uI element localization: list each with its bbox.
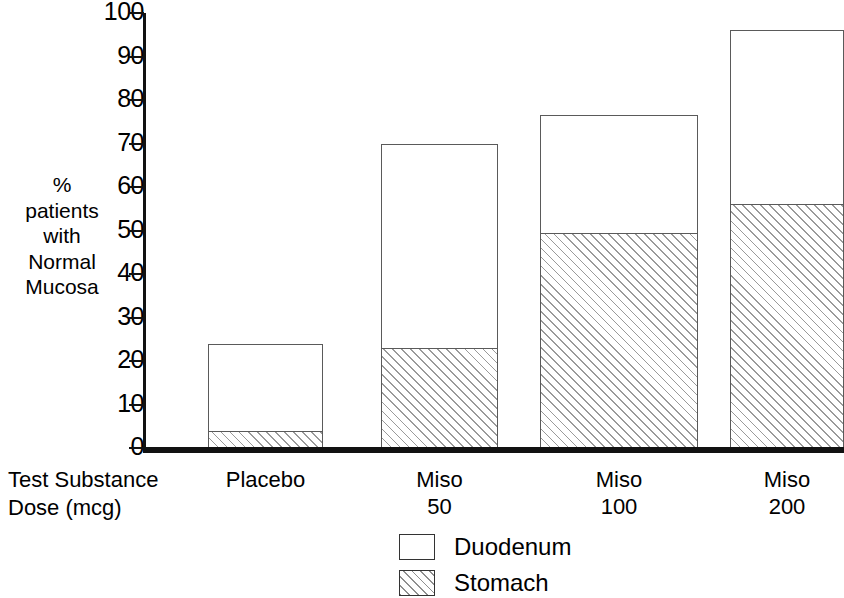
bar-segment-stomach [540, 233, 698, 448]
legend-swatch-duodenum [399, 534, 435, 560]
bar-miso-50 [381, 144, 498, 449]
legend-label-stomach: Stomach [454, 571, 549, 595]
y-axis-tick-mark [129, 447, 144, 449]
y-axis-tick-mark [129, 360, 144, 362]
bar-segment-stomach [381, 348, 498, 448]
y-axis-tick-mark [129, 12, 144, 14]
legend-item-stomach: Stomach [399, 567, 571, 598]
bar-miso-200 [730, 30, 844, 448]
x-axis-label-line: 200 [687, 493, 844, 520]
chart-legend: DuodenumStomach [399, 531, 571, 598]
bar-segment-stomach [208, 431, 323, 448]
y-axis-title-line: Normal [8, 249, 116, 275]
x-axis-title-line: Dose (mcg) [8, 494, 158, 522]
plot-area [143, 13, 844, 448]
y-axis-title-line: Mucosa [8, 274, 116, 300]
x-axis-label-placebo: Placebo [166, 466, 366, 493]
bar-placebo [208, 344, 323, 448]
y-axis-title-line: patients [8, 198, 116, 224]
y-axis-title: %patientswithNormalMucosa [8, 172, 116, 300]
x-axis-title: Test SubstanceDose (mcg) [8, 466, 158, 522]
y-axis-tick-mark [129, 56, 144, 58]
x-axis-label-line: Placebo [166, 466, 366, 493]
x-axis-baseline [143, 447, 844, 453]
bar-segment-duodenum [208, 344, 323, 431]
y-axis-tick-mark [129, 230, 144, 232]
y-axis-title-line: with [8, 223, 116, 249]
x-axis-label-miso-200: Miso200 [687, 466, 844, 520]
bar-segment-duodenum [540, 115, 698, 232]
bar-miso-100 [540, 115, 698, 448]
y-axis-tick-mark [129, 317, 144, 319]
x-axis-label-line: Miso [340, 466, 540, 493]
x-axis-title-line: Test Substance [8, 466, 158, 494]
y-axis-tick-mark [129, 99, 144, 101]
x-axis-label-line: 50 [340, 493, 540, 520]
chart-figure: 0102030405060708090100 %patientswithNorm… [0, 0, 844, 598]
y-axis-tick-mark [129, 273, 144, 275]
x-axis-label-line: Miso [687, 466, 844, 493]
y-axis-tick-mark [129, 404, 144, 406]
y-axis-title-line: % [8, 172, 116, 198]
y-axis-tick-mark [129, 143, 144, 145]
legend-swatch-stomach [399, 570, 435, 596]
bar-segment-duodenum [381, 144, 498, 348]
legend-label-duodenum: Duodenum [454, 535, 571, 559]
bar-segment-stomach [730, 204, 844, 448]
bar-segment-duodenum [730, 30, 844, 204]
legend-item-duodenum: Duodenum [399, 531, 571, 562]
y-axis-tick-mark [129, 186, 144, 188]
x-axis-label-miso-50: Miso50 [340, 466, 540, 520]
